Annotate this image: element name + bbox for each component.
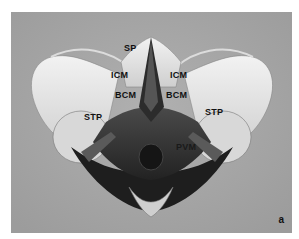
pelvis-illustration xyxy=(11,12,292,233)
label-stp-right: STP xyxy=(205,108,223,117)
label-icm-right: ICM xyxy=(170,71,187,80)
label-stp-left: STP xyxy=(84,113,102,122)
panel-letter: a xyxy=(278,214,284,225)
label-icm-left: ICM xyxy=(111,71,128,80)
figure-image: SP ICM ICM BCM BCM STP STP PVM a xyxy=(11,12,292,233)
label-sp: SP xyxy=(124,44,136,53)
label-pvm: PVM xyxy=(176,143,196,152)
label-bcm-right: BCM xyxy=(166,91,187,100)
label-bcm-left: BCM xyxy=(115,91,136,100)
